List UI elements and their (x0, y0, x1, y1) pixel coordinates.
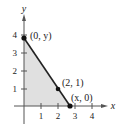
chart: 1 2 3 4 1 2 3 4 y x (0, y) (2, 1) (x, 0) (0, 0, 118, 128)
x-axis-arrow-icon (101, 104, 108, 108)
point-bottom (67, 103, 72, 108)
point-top-label: (0, y) (30, 30, 52, 42)
x-axis-label: x (110, 100, 116, 111)
y-axis-label: y (21, 3, 27, 14)
x-tick-label: 3 (73, 111, 78, 121)
y-tick-label: 4 (13, 30, 18, 40)
x-tick-label: 2 (56, 111, 61, 121)
x-tick-label: 4 (90, 111, 95, 121)
point-bottom-label: (x, 0) (71, 92, 93, 104)
point-top (21, 35, 26, 40)
y-tick-label: 2 (13, 66, 18, 76)
y-tick-label: 1 (13, 84, 18, 94)
y-axis-arrow-icon (22, 14, 26, 21)
x-tick-label: 1 (39, 111, 44, 121)
point-mid-label: (2, 1) (62, 77, 84, 89)
y-tick-label: 3 (13, 48, 18, 58)
point-mid (56, 87, 61, 92)
